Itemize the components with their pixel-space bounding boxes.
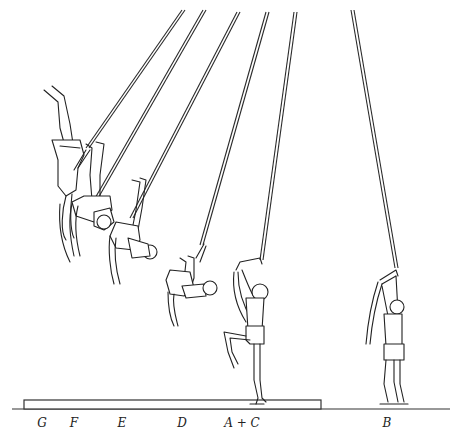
- gymnast-AC: [224, 258, 268, 404]
- label-B: B: [383, 416, 392, 430]
- gymnast-D: [166, 244, 217, 326]
- landing-mat: [24, 400, 321, 409]
- rope-D: [200, 12, 269, 245]
- rope-AC: [260, 12, 297, 260]
- gymnast-B: [366, 270, 408, 404]
- label-E: E: [118, 416, 127, 430]
- gymnast-rope-diagram: [0, 0, 464, 443]
- gymnast-G: [44, 86, 90, 262]
- label-D: D: [177, 416, 187, 430]
- label-F: F: [70, 416, 78, 430]
- rope-B: [351, 10, 398, 268]
- label-G: G: [37, 416, 47, 430]
- label-AC: A + C: [224, 416, 260, 430]
- gymnast-E: [109, 178, 157, 284]
- rope-E: [130, 12, 240, 218]
